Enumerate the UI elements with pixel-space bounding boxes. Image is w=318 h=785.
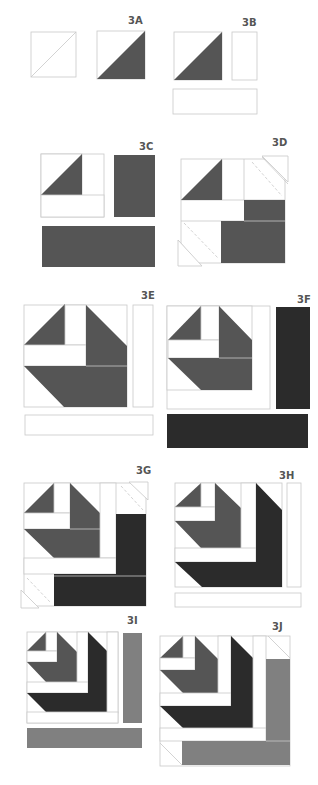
- black-strip-vertical: [276, 307, 310, 409]
- step-label-3c: 3C: [139, 141, 153, 152]
- step-3j: 3J: [160, 621, 290, 766]
- white-strip-horizontal: [173, 89, 257, 114]
- step-label-3d: 3D: [272, 137, 287, 148]
- step-3d: 3D: [178, 137, 288, 266]
- step-label-3b: 3B: [242, 17, 257, 28]
- step-3g: 3G: [21, 465, 151, 608]
- square-with-diagonal: [31, 32, 76, 77]
- gray-strip-horizontal: [27, 728, 142, 748]
- step-3i: 3I: [27, 615, 142, 748]
- quilt-diagram: 3A 3B 3C 3D: [0, 0, 318, 785]
- step-label-3j: 3J: [272, 621, 283, 632]
- dark-rectangle: [114, 155, 155, 217]
- white-strip-vertical: [287, 483, 301, 587]
- white-strip-vertical: [133, 305, 153, 407]
- black-strip-horizontal: [167, 414, 308, 448]
- step-label-3i: 3I: [127, 615, 138, 626]
- step-label-3h: 3H: [279, 470, 294, 481]
- step-label-3f: 3F: [297, 294, 311, 305]
- step-label-3a: 3A: [128, 15, 143, 26]
- step-label-3e: 3E: [141, 290, 155, 301]
- step-3c: 3C: [41, 141, 155, 267]
- white-strip-vertical: [232, 32, 257, 80]
- white-strip-horizontal: [175, 593, 301, 607]
- half-square-triangle: [97, 31, 145, 79]
- step-3h: 3H: [175, 470, 301, 607]
- step-3f: 3F: [167, 294, 311, 448]
- step-3a: 3A: [31, 15, 145, 79]
- dark-strip: [42, 226, 155, 267]
- white-strip-horizontal: [25, 415, 153, 435]
- step-3e: 3E: [24, 290, 155, 435]
- step-label-3g: 3G: [136, 465, 151, 476]
- gray-strip-vertical: [123, 633, 142, 723]
- step-3b: 3B: [173, 17, 257, 114]
